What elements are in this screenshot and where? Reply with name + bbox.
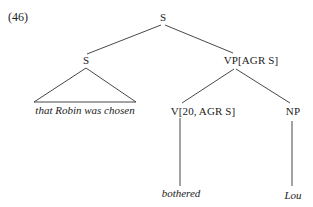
branch-vp-to-np	[236, 69, 290, 103]
node-root-s: S	[160, 12, 166, 23]
node-v: V[20, AGR S]	[171, 106, 235, 117]
node-np: NP	[286, 106, 300, 117]
node-left-s: S	[83, 55, 89, 66]
leaf-that-robin-was-chosen: that Robin was chosen	[35, 105, 134, 116]
leaf-lou: Lou	[284, 190, 301, 201]
node-vp: VP[AGR S]	[224, 55, 278, 66]
branch-vp-to-v	[182, 69, 234, 103]
triangle-s	[34, 68, 136, 102]
branch-root-to-vp	[165, 25, 233, 53]
leaf-bothered: bothered	[162, 188, 201, 199]
branch-root-to-s	[87, 25, 161, 54]
